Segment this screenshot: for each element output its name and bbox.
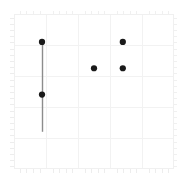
- data-point-c-upper[interactable]: [120, 39, 126, 45]
- data-point-b[interactable]: [91, 65, 97, 71]
- data-point-c-lower[interactable]: [120, 65, 126, 71]
- plot-background: [0, 0, 191, 183]
- plot-canvas: [0, 0, 191, 183]
- plot-area-fill: [14, 14, 174, 169]
- scatter-plot-figure: [0, 0, 191, 183]
- data-point-a-lower[interactable]: [39, 91, 45, 97]
- data-point-a-upper[interactable]: [39, 39, 45, 45]
